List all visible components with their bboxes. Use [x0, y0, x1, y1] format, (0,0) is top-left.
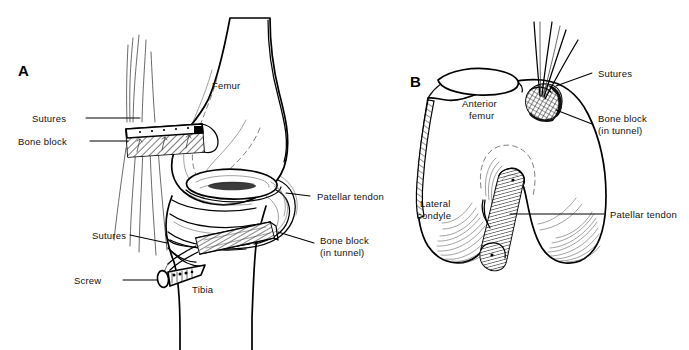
- label-bone-block-b-l1: Bone block: [598, 113, 647, 124]
- label-bone-block-tunnel-a-l2: (in tunnel): [320, 247, 364, 258]
- label-screw: Screw: [74, 275, 101, 286]
- label-tibia: Tibia: [192, 284, 214, 295]
- panel-b-bone-block: [526, 84, 562, 122]
- panel-b-letter: B: [410, 73, 421, 90]
- panel-a-letter: A: [18, 62, 29, 79]
- anatomical-figure: A Sutures Bone block Femur Patellar tend…: [0, 0, 689, 350]
- label-lateral-condyle-l2: condyle: [417, 210, 451, 221]
- label-bone-block-tunnel-a-l1: Bone block: [320, 235, 369, 246]
- label-femur: Femur: [212, 80, 240, 91]
- label-sutures-upper: Sutures: [32, 113, 66, 124]
- label-lateral-condyle-l1: Lateral: [420, 198, 450, 209]
- label-sutures-b: Sutures: [598, 68, 632, 79]
- label-anterior-femur-l2: femur: [469, 110, 494, 121]
- label-bone-block-upper: Bone block: [18, 136, 67, 147]
- label-patellar-tendon-a: Patellar tendon: [317, 191, 384, 202]
- label-bone-block-b-l2: (in tunnel): [598, 125, 642, 136]
- label-sutures-lower: Sutures: [92, 230, 126, 241]
- label-anterior-femur-l1: Anterior: [462, 98, 497, 109]
- label-patellar-tendon-b: Patellar tendon: [610, 209, 677, 220]
